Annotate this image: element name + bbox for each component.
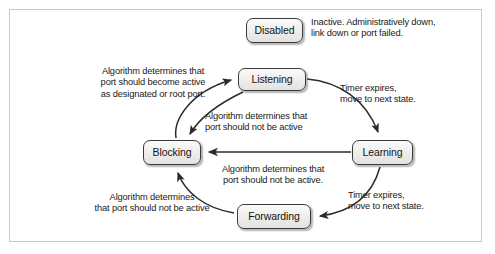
state-node-disabled[interactable]: Disabled <box>246 18 303 43</box>
state-node-forwarding[interactable]: Forwarding <box>237 204 311 229</box>
state-node-learning[interactable]: Learning <box>352 140 413 165</box>
annotation-disabled-description: Inactive. Administratively down, link do… <box>311 17 481 40</box>
edge-label-listening-to-blocking: Algorithm determines that port should no… <box>205 111 337 134</box>
state-label-listening: Listening <box>251 74 292 85</box>
state-node-listening[interactable]: Listening <box>238 68 306 91</box>
edge-label-forwarding-to-blocking: Algorithm determines that port should no… <box>88 192 216 215</box>
state-label-forwarding: Forwarding <box>248 211 300 222</box>
edge-label-listening-to-learning: Timer expires, move to next state. <box>340 83 450 106</box>
stp-state-diagram: Disabled Listening Blocking Learning For… <box>0 0 495 254</box>
edge-label-learning-to-forwarding: Timer expires, move to next state. <box>348 190 460 213</box>
edge-label-blocking-to-listening: Algorithm determines that port should be… <box>82 66 224 100</box>
state-label-blocking: Blocking <box>153 147 192 158</box>
state-node-blocking[interactable]: Blocking <box>143 140 201 165</box>
state-label-disabled: Disabled <box>254 25 294 36</box>
state-label-learning: Learning <box>362 147 402 158</box>
edge-label-learning-to-blocking: Algorithm determines that port should no… <box>205 164 341 187</box>
